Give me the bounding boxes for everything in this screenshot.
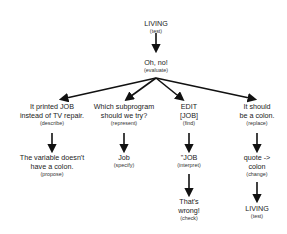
node-sublabel: (interpret) [177, 162, 200, 169]
node-label-line: instead of TV repair. [20, 111, 84, 120]
node-label-line: colon [244, 162, 271, 171]
node-job-specify: Job (specify) [114, 153, 134, 169]
node-oh-no: Oh, no! (evaluate) [144, 58, 168, 74]
node-sublabel: (test) [144, 28, 168, 35]
node-sublabel: (replace) [239, 120, 274, 127]
node-label-line: [JOB] [180, 111, 198, 120]
node-label: Oh, no! [144, 58, 168, 67]
node-label-line: be a colon. [239, 111, 274, 120]
node-sublabel: (test) [245, 213, 269, 220]
node-sublabel: (specify) [114, 162, 134, 169]
node-label: Job [114, 153, 134, 162]
node-sublabel: (change) [244, 171, 271, 178]
node-living-test: LIVING (test) [144, 19, 168, 35]
node-sublabel: (check) [178, 215, 200, 222]
node-sublabel: (evaluate) [144, 67, 168, 74]
node-label-line: Which subprogram [94, 102, 154, 111]
node-printed-job: It printed JOB instead of TV repair. (de… [20, 102, 84, 127]
node-edit-job: EDIT [JOB] (find) [180, 102, 198, 127]
node-thats-wrong: That's wrong! (check) [178, 197, 200, 222]
node-living-test-2: LIVING (test) [245, 204, 269, 220]
node-sublabel: (represent) [94, 120, 154, 127]
node-label-line: have a colon. [20, 162, 85, 171]
node-label-line: should we try? [94, 111, 154, 120]
node-label-line: quote -> [244, 153, 271, 162]
node-label: LIVING [144, 19, 168, 28]
node-label: LIVING [245, 204, 269, 213]
node-sublabel: (propose) [20, 171, 85, 178]
node-should-be-colon: It should be a colon. (replace) [239, 102, 274, 127]
node-label: "JOB [177, 153, 200, 162]
node-quote-to-colon: quote -> colon (change) [244, 153, 271, 178]
edge-ohno-should [156, 78, 254, 99]
node-label-line: The variable doesn't [20, 153, 85, 162]
node-variable-no-colon: The variable doesn't have a colon. (prop… [20, 153, 85, 178]
node-label-line: wrong! [178, 206, 200, 215]
node-sublabel: (describe) [20, 120, 84, 127]
node-quote-job: "JOB (interpret) [177, 153, 200, 169]
node-label-line: It should [239, 102, 274, 111]
node-sublabel: (find) [180, 120, 198, 127]
node-label-line: That's [178, 197, 200, 206]
node-which-subprogram: Which subprogram should we try? (represe… [94, 102, 154, 127]
node-label-line: EDIT [180, 102, 198, 111]
node-label-line: It printed JOB [20, 102, 84, 111]
